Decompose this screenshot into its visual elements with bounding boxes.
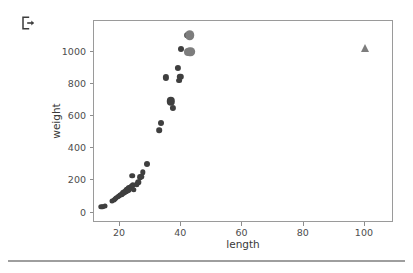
y-tick-label: 800 xyxy=(68,77,86,88)
data-point xyxy=(131,187,136,192)
y-tick-label: 0 xyxy=(80,206,86,217)
bottom-separator xyxy=(8,260,405,262)
x-tick-mark xyxy=(241,222,242,226)
x-tick-mark xyxy=(180,222,181,226)
y-tick-label: 1000 xyxy=(62,45,86,56)
y-tick-label: 600 xyxy=(68,109,86,120)
data-point xyxy=(361,44,369,52)
y-tick-label: 400 xyxy=(68,142,86,153)
data-point xyxy=(129,173,135,179)
screenshot-root: 0200400600800100020406080100 length weig… xyxy=(0,0,413,273)
y-tick-mark xyxy=(90,51,94,52)
y-tick-mark xyxy=(90,147,94,148)
data-point xyxy=(103,204,108,209)
data-point xyxy=(170,105,176,111)
data-point xyxy=(185,31,195,41)
x-tick-label: 100 xyxy=(355,227,373,238)
x-tick-mark xyxy=(303,222,304,226)
data-points-layer xyxy=(94,21,392,221)
data-point xyxy=(139,174,144,179)
data-point xyxy=(144,161,150,167)
y-tick-mark xyxy=(90,83,94,84)
x-tick-label: 80 xyxy=(297,227,309,238)
x-tick-label: 40 xyxy=(174,227,186,238)
data-point xyxy=(174,65,180,71)
data-point xyxy=(184,48,192,56)
data-point xyxy=(156,128,162,134)
data-point xyxy=(136,180,141,185)
x-tick-label: 20 xyxy=(113,227,125,238)
x-axis-label: length xyxy=(226,238,259,250)
y-tick-mark xyxy=(90,115,94,116)
data-point xyxy=(177,73,183,79)
scatter-figure: 0200400600800100020406080100 length weig… xyxy=(0,0,413,273)
y-tick-mark xyxy=(90,179,94,180)
data-point xyxy=(140,170,145,175)
x-tick-label: 60 xyxy=(235,227,247,238)
y-tick-mark xyxy=(90,212,94,213)
x-tick-mark xyxy=(119,222,120,226)
data-point xyxy=(163,74,169,80)
plot-area xyxy=(93,20,393,222)
x-tick-mark xyxy=(364,222,365,226)
y-tick-label: 200 xyxy=(68,174,86,185)
y-axis-label: weight xyxy=(50,103,62,138)
data-point xyxy=(158,120,164,126)
data-point xyxy=(178,46,184,52)
